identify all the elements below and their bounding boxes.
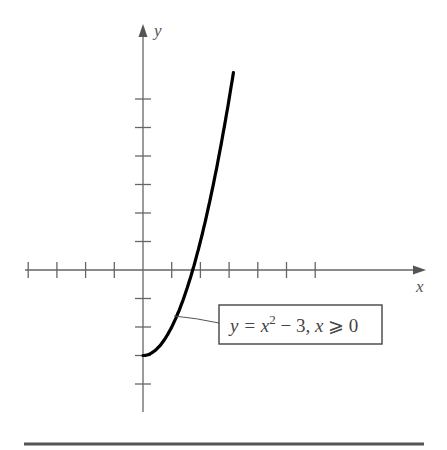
callout-leader-line [174,316,219,323]
x-axis-arrow-icon [413,266,426,275]
y-axis-arrow-icon [139,24,148,37]
x-axis-label: x [415,277,424,296]
y-axis-label: y [152,21,162,40]
graph: y x y = x2 − 3, x ⩾ 0 [0,0,447,450]
equation-label: y = x2 − 3, x ⩾ 0 [228,312,358,336]
